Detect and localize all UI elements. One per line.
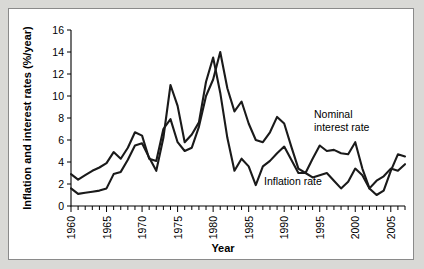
y-tick-label: 8 bbox=[58, 112, 64, 124]
x-tick-label: 2000 bbox=[349, 216, 361, 240]
y-tick-label: 0 bbox=[58, 200, 64, 212]
x-tick-label: 1970 bbox=[136, 216, 148, 240]
x-tick-label: 1985 bbox=[243, 216, 255, 240]
y-tick-label: 14 bbox=[52, 46, 64, 58]
inflation-label: Inflation rate bbox=[264, 175, 322, 187]
x-tick-label: 1980 bbox=[207, 216, 219, 240]
axis-spine bbox=[71, 30, 405, 206]
x-tick-label: 1960 bbox=[65, 216, 77, 240]
axes-group bbox=[71, 30, 405, 206]
y-tick-label: 4 bbox=[58, 156, 64, 168]
y-axis-title: Inflation and interest rates (%/year) bbox=[21, 26, 33, 210]
x-tick-group: 1960196519701975198019851990199520002005 bbox=[65, 206, 405, 239]
nominal-label: Nominalinterest rate bbox=[314, 108, 370, 133]
figure-panel: 0246810121416 19601965197019751980198519… bbox=[8, 8, 414, 260]
chart-canvas: 0246810121416 19601965197019751980198519… bbox=[9, 9, 415, 261]
x-tick-label: 1965 bbox=[101, 216, 113, 240]
x-tick-label: 2005 bbox=[385, 216, 397, 240]
x-tick-label: 1995 bbox=[314, 216, 326, 240]
x-axis-title: Year bbox=[211, 242, 235, 254]
y-tick-label: 12 bbox=[52, 68, 64, 80]
y-tick-label: 16 bbox=[52, 24, 64, 36]
y-tick-label: 10 bbox=[52, 90, 64, 102]
y-tick-label: 6 bbox=[58, 134, 64, 146]
y-tick-group: 0246810121416 bbox=[52, 24, 71, 212]
x-tick-label: 1990 bbox=[278, 216, 290, 240]
x-tick-label: 1975 bbox=[172, 216, 184, 240]
y-tick-label: 2 bbox=[58, 178, 64, 190]
